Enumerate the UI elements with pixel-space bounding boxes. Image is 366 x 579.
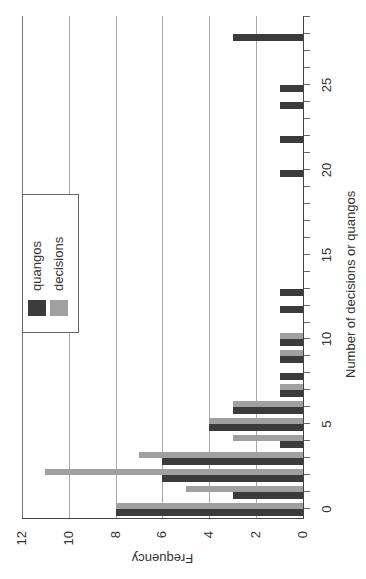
bar-quangos [280, 373, 303, 380]
y-tick-label: 12 [15, 531, 29, 561]
gridline [256, 16, 257, 519]
x-tick [304, 440, 310, 441]
x-tick [304, 457, 310, 458]
x-tick [304, 406, 310, 407]
bar-quangos [280, 356, 303, 363]
y-tick-label: 8 [109, 531, 123, 561]
bar-decisions [45, 469, 303, 475]
x-tick [304, 423, 310, 424]
x-tick [304, 135, 310, 136]
y-tick-label: 2 [249, 531, 263, 561]
bar-quangos [162, 475, 303, 482]
x-tick-label: 20 [320, 155, 334, 185]
gridline [116, 16, 117, 519]
bar-quangos [280, 102, 303, 109]
bar-quangos [280, 390, 303, 397]
x-tick [304, 254, 310, 255]
x-tick [304, 152, 310, 153]
rotated-bar-chart: 0246810120510152025 Frequency Number of … [0, 0, 366, 579]
x-tick-label: 5 [320, 409, 334, 439]
legend-label-decisions: decisions [50, 237, 68, 291]
y-axis-line [22, 518, 303, 519]
x-tick [304, 33, 310, 34]
bar-quangos [280, 289, 303, 296]
x-tick [304, 338, 310, 339]
legend-item-decisions: decisions [50, 195, 68, 332]
bar-decisions [116, 503, 303, 509]
bar-decisions [280, 333, 303, 339]
bar-decisions [186, 486, 303, 492]
legend-swatch-decisions [50, 300, 68, 316]
x-axis-label: Number of decisions or quangos [343, 191, 358, 378]
x-tick-label: 25 [320, 70, 334, 100]
x-tick [304, 372, 310, 373]
legend: quangos decisions [22, 194, 79, 333]
bar-quangos [280, 136, 303, 143]
x-tick [304, 491, 310, 492]
bar-decisions [280, 384, 303, 390]
x-tick [304, 508, 310, 509]
bar-quangos [233, 407, 303, 414]
x-tick [304, 16, 310, 17]
x-tick [304, 288, 310, 289]
y-tick-label: 4 [202, 531, 216, 561]
bar-quangos [116, 509, 303, 516]
x-tick [304, 50, 310, 51]
x-tick [304, 186, 310, 187]
x-tick [304, 305, 310, 306]
bar-quangos [280, 85, 303, 92]
y-tick-label: 0 [296, 531, 310, 561]
bar-decisions [139, 452, 303, 458]
bar-quangos [162, 458, 303, 465]
bar-quangos [233, 492, 303, 499]
x-tick [304, 389, 310, 390]
x-tick-label: 0 [320, 494, 334, 524]
x-tick [304, 101, 310, 102]
x-tick [304, 237, 310, 238]
gridline [162, 16, 163, 519]
gridline [209, 16, 210, 519]
legend-swatch-quangos [28, 300, 46, 316]
x-axis-line [303, 16, 304, 519]
x-tick [304, 84, 310, 85]
x-tick [304, 203, 310, 204]
bar-decisions [209, 418, 303, 424]
x-tick [304, 67, 310, 68]
bar-quangos [280, 306, 303, 313]
x-tick [304, 169, 310, 170]
x-tick [304, 322, 310, 323]
bar-decisions [280, 350, 303, 356]
x-tick [304, 474, 310, 475]
bar-quangos [280, 170, 303, 177]
x-tick [304, 220, 310, 221]
bar-quangos [209, 424, 303, 431]
x-tick [304, 355, 310, 356]
legend-item-quangos: quangos [28, 195, 46, 332]
legend-label-quangos: quangos [28, 241, 46, 291]
bar-decisions [233, 435, 303, 441]
x-tick [304, 118, 310, 119]
x-tick-label: 15 [320, 240, 334, 270]
x-tick-label: 10 [320, 324, 334, 354]
bar-decisions [233, 401, 303, 407]
bar-quangos [280, 441, 303, 448]
y-axis-label: Frequency [128, 551, 198, 566]
bar-quangos [280, 339, 303, 346]
x-tick [304, 271, 310, 272]
bar-quangos [233, 34, 303, 41]
y-tick-label: 10 [62, 531, 76, 561]
